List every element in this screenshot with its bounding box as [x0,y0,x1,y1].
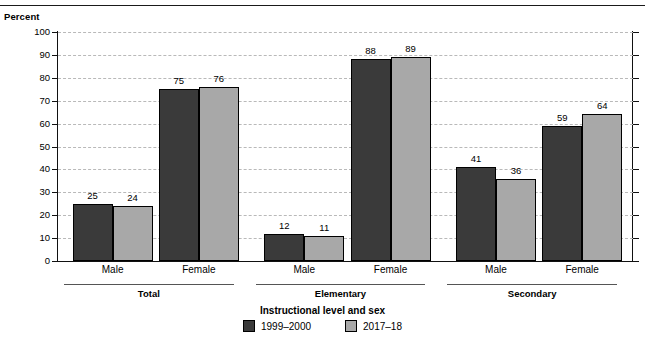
y-axis-label: 50 [24,141,50,152]
x-axis-line [57,261,633,262]
bar-value-label: 11 [298,222,350,233]
bar [264,234,304,261]
x-axis-title: Instructional level and sex [0,305,645,316]
y-axis-tick [52,78,58,79]
y-axis-label: 90 [24,49,50,60]
y-axis-label: 0 [24,255,50,266]
series-1-swatch [243,320,255,332]
legend-item: 2017–18 [345,320,402,332]
bar [456,167,496,261]
y-axis-tick [52,192,58,193]
y-axis-tick-right [633,147,639,148]
y-axis-title: Percent [4,11,40,22]
y-axis-tick [52,169,58,170]
group-label: Secondary [447,288,617,299]
top-divider-rule [0,5,645,6]
y-axis-tick-right [633,261,639,262]
y-axis-tick [52,124,58,125]
x-axis-category-label: Female [154,264,244,275]
bar-value-label: 59 [536,112,588,123]
x-axis-category-label: Female [346,264,436,275]
y-axis-label: 100 [24,26,50,37]
bar-value-label: 41 [450,153,502,164]
group-label: Elementary [256,288,426,299]
y-axis-tick-right [633,101,639,102]
y-axis-tick [52,261,58,262]
y-axis-tick-right [633,55,639,56]
bar [113,206,153,261]
bar-value-label: 24 [107,192,159,203]
bar [159,89,199,261]
y-axis-label: 30 [24,186,50,197]
y-axis-tick-right [633,192,639,193]
y-axis-label: 20 [24,209,50,220]
y-axis-tick [52,238,58,239]
chart-legend: 1999–20002017–18 [0,320,645,332]
y-axis-label: 60 [24,118,50,129]
y-axis-label: 10 [24,232,50,243]
gridline [58,101,633,102]
bar-value-label: 89 [385,43,437,54]
y-axis-tick-right [633,238,639,239]
y-axis-tick-right [633,169,639,170]
x-axis-category-label: Female [537,264,627,275]
x-axis-category-label: Male [259,264,349,275]
y-axis-tick-right [633,124,639,125]
bar [73,204,113,261]
y-axis-tick [52,101,58,102]
gridline [58,78,633,79]
group-bracket-rule [256,284,426,285]
y-axis-tick-right [633,215,639,216]
y-axis-tick-right [633,32,639,33]
y-axis-tick [52,215,58,216]
bar [496,179,536,261]
y-axis-label: 80 [24,72,50,83]
bar [304,236,344,261]
bar-value-label: 76 [193,73,245,84]
bar [199,87,239,261]
series-2-swatch [345,320,357,332]
y-axis-tick [52,32,58,33]
y-axis-label: 40 [24,163,50,174]
group-bracket-rule [64,284,234,285]
bar [391,57,431,261]
x-axis-category-label: Male [451,264,541,275]
legend-label: 2017–18 [363,321,402,332]
bar-value-label: 36 [490,165,542,176]
y-axis-tick [52,147,58,148]
group-label: Total [64,288,234,299]
gridline [58,124,633,125]
gridline [58,32,633,33]
legend-item: 1999–2000 [243,320,311,332]
y-axis-tick [52,55,58,56]
bar-value-label: 64 [576,100,628,111]
bar [542,126,582,261]
group-bracket-rule [447,284,617,285]
bar [351,59,391,261]
x-axis-category-label: Male [68,264,158,275]
bar [582,114,622,261]
y-axis-label: 70 [24,95,50,106]
legend-label: 1999–2000 [261,321,311,332]
y-axis-tick-right [633,78,639,79]
